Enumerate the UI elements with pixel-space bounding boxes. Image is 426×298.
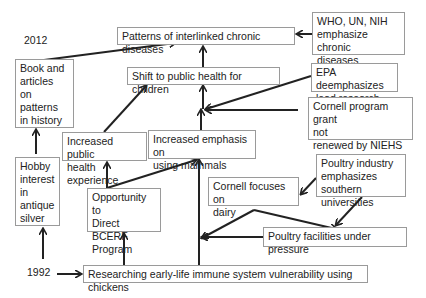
node-hobby-antique-silver: Hobby interest in antique silver (15, 157, 60, 226)
year-label-2012: 2012 (24, 34, 47, 46)
node-patterns-chronic-diseases: Patterns of interlinked chronic diseases (117, 27, 295, 45)
node-researching-immune: Researching early-life immune system vul… (83, 265, 368, 283)
node-public-health-experience: Increased public health experience (62, 132, 147, 161)
node-cornell-dairy: Cornell focuses on dairy (208, 177, 299, 206)
node-poultry-industry: Poultry industry emphasizes southern uni… (316, 154, 406, 197)
node-poultry-facilities: Poultry facilities under pressure (263, 227, 407, 247)
node-epa-deemphasizes: EPA deemphasizes lead research (311, 63, 398, 92)
year-label-1992: 1992 (27, 266, 50, 278)
node-shift-public-health: Shift to public health for children (127, 67, 280, 85)
node-book-articles: Book and articles on patterns in history (15, 59, 74, 128)
node-cornell-grant: Cornell program grant not renewed by NIE… (308, 97, 413, 140)
node-who-un-nih: WHO, UN, NIH emphasize chronic diseases (312, 12, 405, 55)
node-bcerf-opportunity: Opportunity to Direct BCERF Program (87, 188, 161, 232)
node-emphasis-mammals: Increased emphasis on using mammals (148, 130, 256, 159)
